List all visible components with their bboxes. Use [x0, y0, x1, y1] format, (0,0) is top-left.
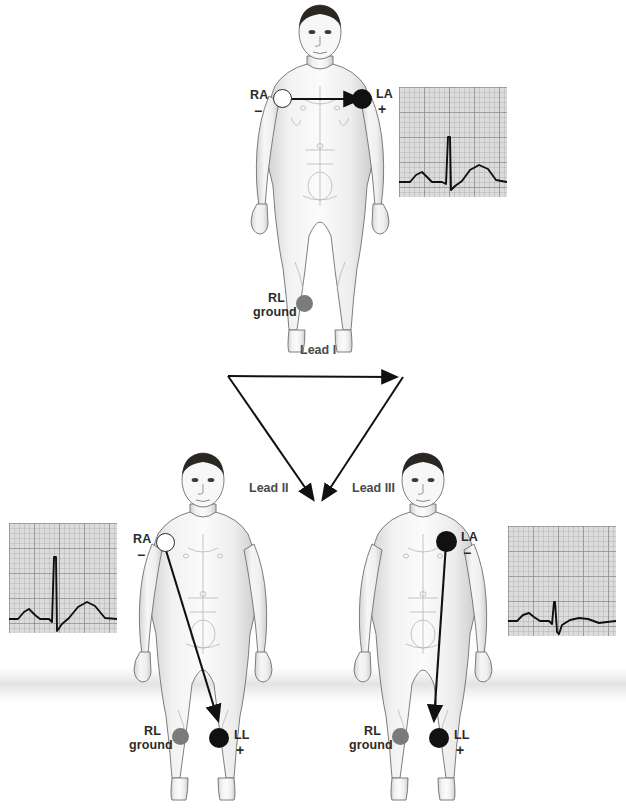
label-rl-lead-3: RL — [364, 725, 381, 738]
vector-arrow-lead-3 — [418, 540, 458, 736]
label-ll-sign-lead-2: + — [236, 745, 244, 756]
triangle-edge-lead-1 — [228, 376, 396, 377]
vector-arrow-lead-2 — [158, 540, 238, 736]
label-rl-lead-1: RL — [268, 292, 285, 305]
label-ra-sign-lead-2: − — [137, 550, 145, 561]
electrode-rl-lead-2[interactable] — [172, 728, 189, 745]
electrode-la-lead-3[interactable] — [436, 531, 457, 552]
label-ra-sign-lead-1: − — [254, 106, 262, 117]
ecg-panel-lead-2 — [9, 523, 117, 633]
scan-band-artifact — [0, 668, 626, 704]
electrode-ll-lead-3[interactable] — [429, 728, 449, 748]
label-ra-lead-2: RA — [133, 533, 151, 546]
label-ll-sign-lead-3: + — [456, 745, 464, 756]
electrode-rl-lead-1[interactable] — [296, 295, 313, 312]
ecg-panel-lead-3 — [508, 526, 616, 636]
ecg-panel-lead-1 — [399, 87, 507, 197]
label-rl-ground-lead-2: ground — [129, 739, 173, 752]
label-la-sign-lead-3: − — [463, 548, 471, 559]
label-ra-lead-1: RA — [250, 89, 268, 102]
electrode-la-lead-1[interactable] — [352, 89, 372, 109]
label-la-sign-lead-1: + — [378, 104, 386, 115]
label-rl-ground-lead-3: ground — [349, 739, 393, 752]
electrode-ra-lead-2[interactable] — [156, 533, 175, 552]
label-la-lead-1: LA — [376, 88, 393, 101]
electrode-ll-lead-2[interactable] — [209, 728, 229, 748]
ecg-lead-diagram: RA − LA + RL ground Lead I — [0, 0, 626, 808]
caption-lead-1: Lead I — [300, 343, 336, 357]
label-rl-lead-2: RL — [144, 725, 161, 738]
label-ll-lead-3: LL — [454, 729, 469, 742]
label-la-lead-3: LA — [461, 531, 478, 544]
label-rl-ground-lead-1: ground — [253, 306, 297, 319]
electrode-ra-lead-1[interactable] — [273, 89, 292, 108]
label-ll-lead-2: LL — [234, 729, 249, 742]
electrode-rl-lead-3[interactable] — [392, 728, 409, 745]
